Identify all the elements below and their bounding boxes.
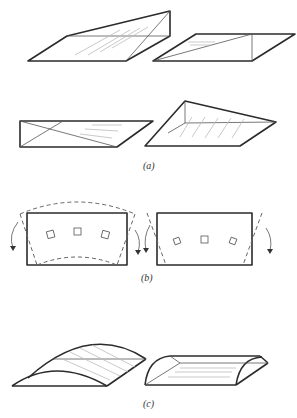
curved-shell-1 <box>12 344 146 386</box>
wedge-1 <box>28 11 170 61</box>
panel-label-a: (a) <box>143 160 155 171</box>
rotation-arrow-icon <box>145 225 150 250</box>
deformed-rect-2 <box>143 213 273 265</box>
diagram-canvas <box>0 0 297 418</box>
figure: (a) (b) (c) <box>0 0 297 418</box>
panel-label-b: (b) <box>141 272 153 283</box>
curved-shell-2 <box>145 356 268 385</box>
rotation-arrow-icon <box>266 228 271 251</box>
wedge-3 <box>20 121 153 147</box>
panel-label-c: (c) <box>143 398 154 409</box>
deformed-rect-1 <box>10 202 141 265</box>
wedge-4 <box>145 101 276 146</box>
rotation-arrow-icon <box>135 230 139 252</box>
rotation-arrow-icon <box>11 222 18 248</box>
wedge-2 <box>153 34 295 61</box>
